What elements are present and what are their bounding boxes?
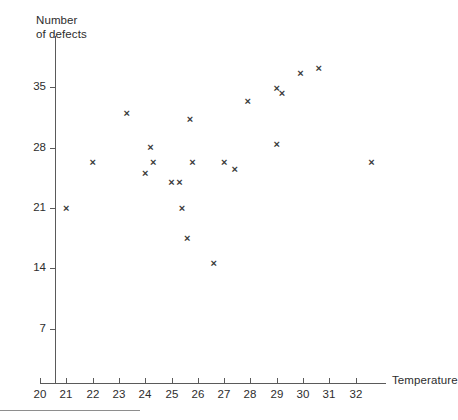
- y-tick-label: 28: [20, 141, 46, 153]
- data-point: [314, 64, 323, 73]
- x-tick-label: 31: [317, 388, 341, 400]
- x-tick-mark: [198, 378, 199, 383]
- data-point: [188, 158, 197, 167]
- y-tick-mark: [50, 208, 55, 209]
- x-tick-label: 22: [81, 388, 105, 400]
- data-point: [141, 169, 150, 178]
- data-point: [209, 259, 218, 268]
- y-tick-mark: [50, 329, 55, 330]
- x-tick-label: 24: [133, 388, 157, 400]
- data-point: [88, 158, 97, 167]
- x-tick-mark: [250, 378, 251, 383]
- x-tick-label: 30: [291, 388, 315, 400]
- data-point: [278, 89, 287, 98]
- x-tick-mark: [277, 378, 278, 383]
- y-tick-label: 21: [20, 201, 46, 213]
- data-point: [296, 69, 305, 78]
- x-tick-label: 25: [160, 388, 184, 400]
- data-point: [149, 158, 158, 167]
- y-tick-mark: [50, 268, 55, 269]
- data-point: [122, 109, 131, 118]
- data-point: [367, 158, 376, 167]
- y-tick-label: 14: [20, 261, 46, 273]
- x-tick-mark: [303, 378, 304, 383]
- x-tick-label: 28: [238, 388, 262, 400]
- data-point: [146, 143, 155, 152]
- x-tick-label: 21: [54, 388, 78, 400]
- data-point: [62, 204, 71, 213]
- x-tick-label: 32: [344, 388, 368, 400]
- x-tick-label: 20: [28, 388, 52, 400]
- data-point: [243, 97, 252, 106]
- data-point: [167, 178, 176, 187]
- x-tick-mark: [40, 378, 41, 383]
- x-tick-label: 23: [107, 388, 131, 400]
- footer-divider: [0, 410, 140, 411]
- data-point: [272, 140, 281, 149]
- x-tick-mark: [224, 378, 225, 383]
- data-point: [185, 115, 194, 124]
- data-point: [272, 84, 281, 93]
- x-tick-mark: [119, 378, 120, 383]
- y-tick-mark: [50, 148, 55, 149]
- y-tick-label: 7: [20, 322, 46, 334]
- y-axis-line: [55, 36, 56, 384]
- x-tick-mark: [93, 378, 94, 383]
- data-point: [183, 234, 192, 243]
- x-axis-title: Temperature: [392, 374, 458, 388]
- x-tick-mark: [356, 378, 357, 383]
- x-tick-mark: [66, 378, 67, 383]
- y-axis-title: Number of defects: [36, 14, 87, 41]
- x-axis-line: [40, 383, 386, 384]
- data-point: [230, 165, 239, 174]
- x-tick-label: 26: [186, 388, 210, 400]
- x-tick-label: 29: [265, 388, 289, 400]
- y-tick-label: 35: [20, 80, 46, 92]
- data-point: [220, 158, 229, 167]
- data-point: [175, 178, 184, 187]
- data-point: [178, 204, 187, 213]
- x-tick-mark: [172, 378, 173, 383]
- x-tick-mark: [145, 378, 146, 383]
- x-tick-label: 27: [212, 388, 236, 400]
- x-tick-mark: [329, 378, 330, 383]
- y-tick-mark: [50, 87, 55, 88]
